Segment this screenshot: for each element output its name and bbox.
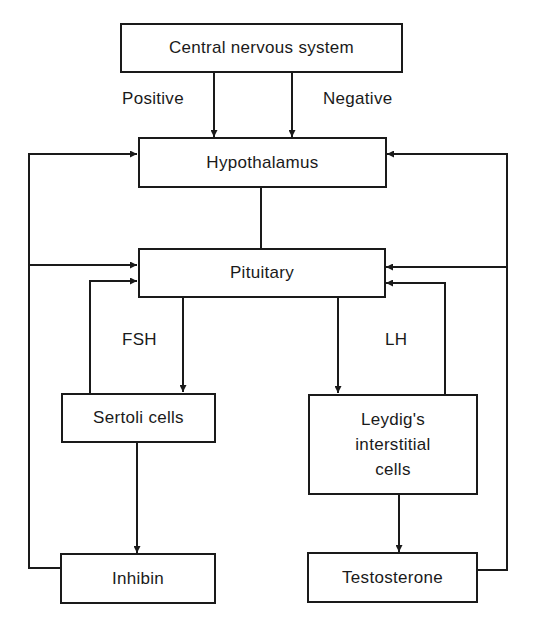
fsh-label: FSH [122,330,157,350]
inhibin-feedback-line [29,154,137,568]
cns-label: Central nervous system [169,37,354,59]
hypothalamus-box: Hypothalamus [138,137,387,188]
testosterone-box: Testosterone [307,552,478,603]
hypothalamus-label: Hypothalamus [206,152,318,174]
negative-label: Negative [323,89,393,109]
hormone-feedback-diagram: Central nervous system Hypothalamus Pitu… [0,0,535,622]
cns-box: Central nervous system [120,23,403,73]
connector-lines [0,0,535,622]
positive-label: Positive [122,89,184,109]
testosterone-feedback-line [387,154,507,570]
lh-label: LH [385,330,407,350]
leydig-label-line1: Leydig's [361,407,425,432]
leydig-label-line2: interstitial [355,432,430,457]
sertoli-label: Sertoli cells [93,407,184,429]
inhibin-box: Inhibin [60,553,216,604]
inhibin-label: Inhibin [112,568,164,590]
sertoli-cells-box: Sertoli cells [61,393,216,443]
pituitary-box: Pituitary [138,248,386,298]
leydig-cells-box: Leydig's interstitial cells [308,394,478,495]
leydig-label-line3: cells [375,457,411,482]
testosterone-label: Testosterone [342,567,443,589]
pituitary-label: Pituitary [230,262,294,284]
